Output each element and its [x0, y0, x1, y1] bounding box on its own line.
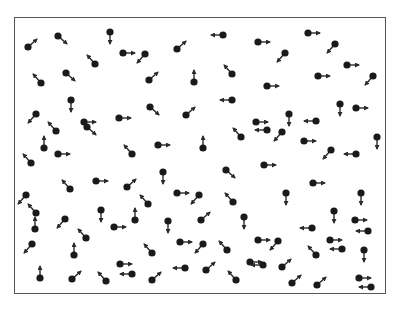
particle-dot: [228, 70, 235, 77]
particle-dot: [331, 40, 338, 47]
particle: [359, 283, 375, 290]
particle: [154, 141, 170, 148]
particle-dot: [274, 237, 281, 244]
particle-dot: [22, 191, 29, 198]
particle-dot: [338, 245, 345, 252]
particle-dot: [364, 227, 371, 234]
particle-dot: [173, 45, 180, 52]
particle-dot: [128, 270, 135, 277]
particle: [233, 128, 244, 141]
particle: [140, 195, 151, 208]
particle-dot: [68, 275, 75, 282]
particle-dot: [54, 150, 61, 157]
particle: [36, 266, 43, 282]
particle-dot: [28, 240, 35, 247]
particle: [300, 224, 316, 231]
particle: [164, 217, 171, 233]
particle-dot: [285, 110, 292, 117]
particle: [131, 208, 138, 224]
particle-dot: [313, 281, 320, 288]
particle-dot: [40, 144, 47, 151]
particle: [120, 270, 136, 277]
particle: [365, 72, 377, 85]
particle-dot: [148, 276, 155, 283]
particle-dot: [282, 189, 289, 196]
particle: [304, 117, 320, 124]
particle: [54, 150, 70, 157]
particle-dot: [32, 209, 39, 216]
particle: [254, 38, 270, 45]
particle-dot: [67, 96, 74, 103]
particle: [28, 204, 40, 217]
particle-dot: [351, 216, 358, 223]
particle-dot: [54, 32, 61, 39]
particle-dot: [360, 246, 367, 253]
particle: [31, 217, 38, 233]
particle-dot: [197, 216, 204, 223]
particle: [195, 240, 206, 253]
particle-dot: [110, 223, 117, 230]
particle: [278, 259, 291, 271]
particle-dot: [278, 128, 285, 135]
particle-dot: [119, 49, 126, 56]
particle: [300, 137, 316, 144]
particle: [54, 32, 67, 44]
particle: [270, 237, 282, 250]
particle: [33, 74, 45, 87]
particle: [197, 212, 210, 223]
particle-dot: [116, 260, 123, 267]
particle: [224, 65, 235, 78]
particle-dot: [181, 264, 188, 271]
particle: [351, 216, 367, 223]
particle: [40, 136, 47, 152]
particle-dot: [145, 76, 152, 83]
particle: [357, 189, 364, 205]
particle-dot: [31, 225, 38, 232]
particle: [176, 238, 192, 245]
particle-dot: [367, 283, 374, 290]
particle: [308, 246, 320, 259]
particle: [355, 274, 371, 281]
particle: [62, 69, 75, 81]
particle-dot: [300, 137, 307, 144]
particle: [116, 260, 132, 267]
particle-dot: [309, 179, 316, 186]
particle-dot: [326, 236, 333, 243]
particle-dot: [263, 82, 270, 89]
particle: [211, 31, 227, 38]
particle: [263, 82, 279, 89]
particle: [57, 215, 69, 228]
particle: [92, 177, 108, 184]
particle: [330, 245, 346, 252]
particle: [173, 264, 189, 271]
particle: [260, 161, 276, 168]
particle-dot: [281, 49, 288, 56]
particle: [24, 39, 37, 51]
particle-dot: [357, 189, 364, 196]
particle: [282, 189, 289, 205]
particle-dot: [61, 215, 68, 222]
particle-dot: [240, 213, 247, 220]
particle: [124, 145, 135, 158]
particle: [78, 229, 90, 242]
particle-dot: [195, 191, 202, 198]
particle-dot: [336, 100, 343, 107]
particle-dot: [369, 72, 376, 79]
particle-dot: [259, 261, 266, 268]
particle-dot: [106, 28, 113, 35]
particle: [106, 28, 113, 44]
particle: [314, 72, 330, 79]
particle-dot: [199, 240, 206, 247]
particle-dot: [232, 276, 239, 283]
particle: [145, 72, 158, 84]
particle-field: [0, 0, 398, 310]
particle: [173, 189, 189, 196]
particle: [327, 40, 339, 53]
particle-dot: [352, 150, 359, 157]
particle: [356, 227, 372, 234]
particle-dot: [24, 43, 31, 50]
particle: [228, 271, 239, 284]
particle: [182, 107, 195, 119]
particle-dot: [52, 127, 59, 134]
particle: [70, 243, 77, 259]
